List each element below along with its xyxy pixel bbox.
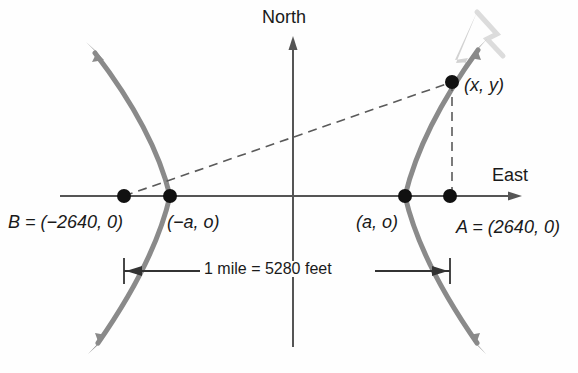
figure-canvas: [0, 0, 578, 373]
point-xy[interactable]: [445, 75, 459, 89]
label-station-b: B = (−2640, 0): [8, 213, 123, 231]
north-axis-label: North: [262, 8, 306, 26]
label-point-xy: (x, y): [464, 76, 504, 94]
point-focus-b[interactable]: [117, 189, 131, 203]
hyperbola-figure: North East B = (−2640, 0) (−a, o) (a, o)…: [0, 0, 578, 373]
dashed-paths: [124, 82, 452, 196]
point-vertex-right[interactable]: [398, 189, 412, 203]
label-distance: 1 mile = 5280 feet: [200, 261, 336, 277]
dimension-arrow-left-icon: [126, 266, 142, 276]
dashed-segment-b-to-xy: [124, 82, 452, 196]
point-vertex-left[interactable]: [163, 189, 177, 203]
east-axis-label: East: [492, 166, 528, 184]
dimension-arrow-right-icon: [432, 266, 448, 276]
label-vertex-left: (−a, o): [167, 213, 220, 231]
label-vertex-right: (a, o): [356, 213, 398, 231]
north-arrow-icon: [289, 36, 298, 50]
point-focus-a[interactable]: [443, 189, 457, 203]
east-arrow-icon: [508, 192, 522, 201]
left-branch-curve: [95, 53, 170, 343]
label-station-a: A = (2640, 0): [456, 218, 560, 236]
